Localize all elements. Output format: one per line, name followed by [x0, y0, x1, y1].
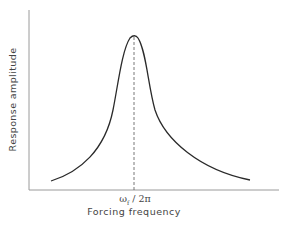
y-axis-label: Response amplitude [7, 40, 18, 160]
tick-rest: / 2π [129, 193, 151, 204]
tick-omega: ω [119, 193, 127, 204]
x-tick-resonance: ωf / 2π [114, 193, 156, 206]
x-axis-label: Forcing frequency [84, 206, 184, 217]
response-curve [51, 36, 250, 181]
